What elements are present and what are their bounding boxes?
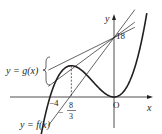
x-axis-arrow-icon [147, 95, 153, 99]
x-axis-label: x [146, 102, 152, 113]
tangent-group-label: y = g(x) [5, 65, 39, 77]
graph-figure: y x 18 O −4 − 8 3 y = g(x) y = f(x) [0, 0, 162, 134]
curve-label: y = f(x) [19, 119, 51, 131]
origin-label: O [113, 100, 120, 110]
y-axis-arrow-icon [112, 14, 116, 20]
local-max-x-sign: − [58, 107, 63, 117]
curve-f [40, 13, 146, 134]
y-axis-label: y [104, 13, 110, 24]
brace-icon [43, 57, 50, 85]
local-max-x-numerator: 8 [69, 101, 73, 110]
local-max-x-denominator: 3 [69, 112, 73, 121]
y-intercept-label: 18 [116, 31, 126, 41]
